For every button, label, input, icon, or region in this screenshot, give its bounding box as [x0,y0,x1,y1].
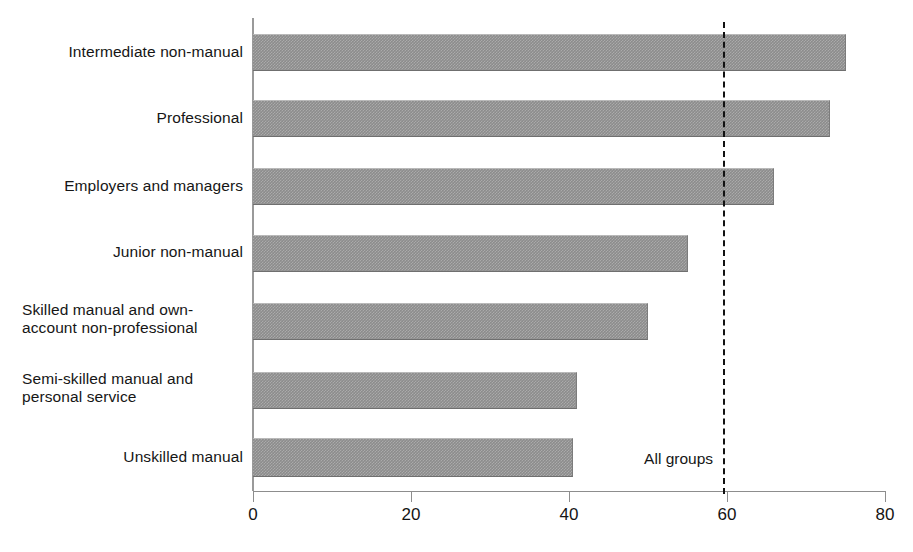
bar-junior-non-manual [253,235,688,272]
category-label-unskilled-manual: Unskilled manual [123,448,243,466]
all-groups-annotation-label: All groups [631,450,713,468]
category-label-employers-and-managers: Employers and managers [64,177,243,195]
x-tick-60 [727,491,728,502]
x-tick-40 [569,491,570,502]
x-tick-label-0: 0 [248,505,257,525]
category-label-professional: Professional [157,109,244,127]
x-tick-80 [885,491,886,502]
bar-unskilled-manual [253,438,573,477]
category-label-skilled-manual-own-account-non-professional: Skilled manual and own- account non-prof… [22,301,198,337]
x-tick-0 [253,491,254,502]
x-tick-label-20: 20 [402,505,421,525]
plot-area: 0 20 40 60 80 All groups [252,18,885,491]
x-tick-label-60: 60 [718,505,737,525]
bar-employers-and-managers [253,168,774,205]
bar-intermediate-non-manual [253,34,846,71]
x-tick-label-40: 40 [560,505,579,525]
x-tick-20 [411,491,412,502]
bar-chart: Intermediate non-manual Professional Emp… [0,0,913,552]
category-label-intermediate-non-manual: Intermediate non-manual [68,43,243,61]
bar-semi-skilled-manual-personal-service [253,372,577,409]
bar-professional [253,100,830,137]
all-groups-reference-line [723,22,725,494]
x-tick-label-80: 80 [876,505,895,525]
category-label-junior-non-manual: Junior non-manual [113,243,243,261]
bar-skilled-manual-own-account-non-professional [253,303,648,340]
category-label-semi-skilled-manual-personal-service: Semi-skilled manual and personal service [22,370,193,406]
